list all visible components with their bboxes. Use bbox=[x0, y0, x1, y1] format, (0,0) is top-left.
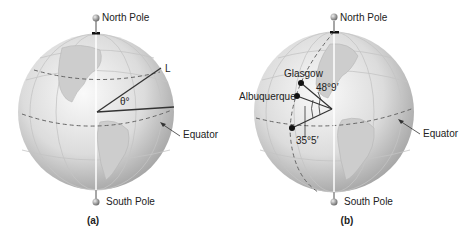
albuquerque-label: Albuquerque bbox=[239, 91, 296, 102]
globe-b bbox=[254, 14, 420, 206]
north-pole-label-a: North Pole bbox=[102, 12, 150, 23]
equator-label-b: Equator bbox=[423, 128, 459, 139]
south-pole-label-a: South Pole bbox=[106, 196, 155, 207]
north-pole-pin-icon bbox=[331, 14, 338, 33]
south-pole-pin-icon bbox=[93, 190, 100, 206]
theta-label: θ° bbox=[120, 96, 130, 107]
north-pole-label-b: North Pole bbox=[340, 12, 388, 23]
angle-albuquerque-label: 35°5′ bbox=[296, 135, 319, 146]
south-pole-pin-icon bbox=[331, 192, 338, 206]
glasgow-dot bbox=[298, 80, 304, 86]
globe-a bbox=[18, 15, 180, 206]
line-l-label: L bbox=[165, 63, 171, 74]
glasgow-label: Glasgow bbox=[284, 68, 324, 79]
south-pole-label-b: South Pole bbox=[344, 196, 393, 207]
caption-a: (a) bbox=[87, 215, 99, 226]
equator-label-a: Equator bbox=[183, 129, 219, 140]
north-pole-pin-icon bbox=[93, 15, 100, 34]
caption-b: (b) bbox=[341, 215, 354, 226]
angle-glasgow-label: 48°9′ bbox=[316, 82, 339, 93]
equator-dot bbox=[289, 125, 295, 131]
globe-diagram: North Pole South Pole Equator L θ° (a) bbox=[0, 0, 471, 239]
